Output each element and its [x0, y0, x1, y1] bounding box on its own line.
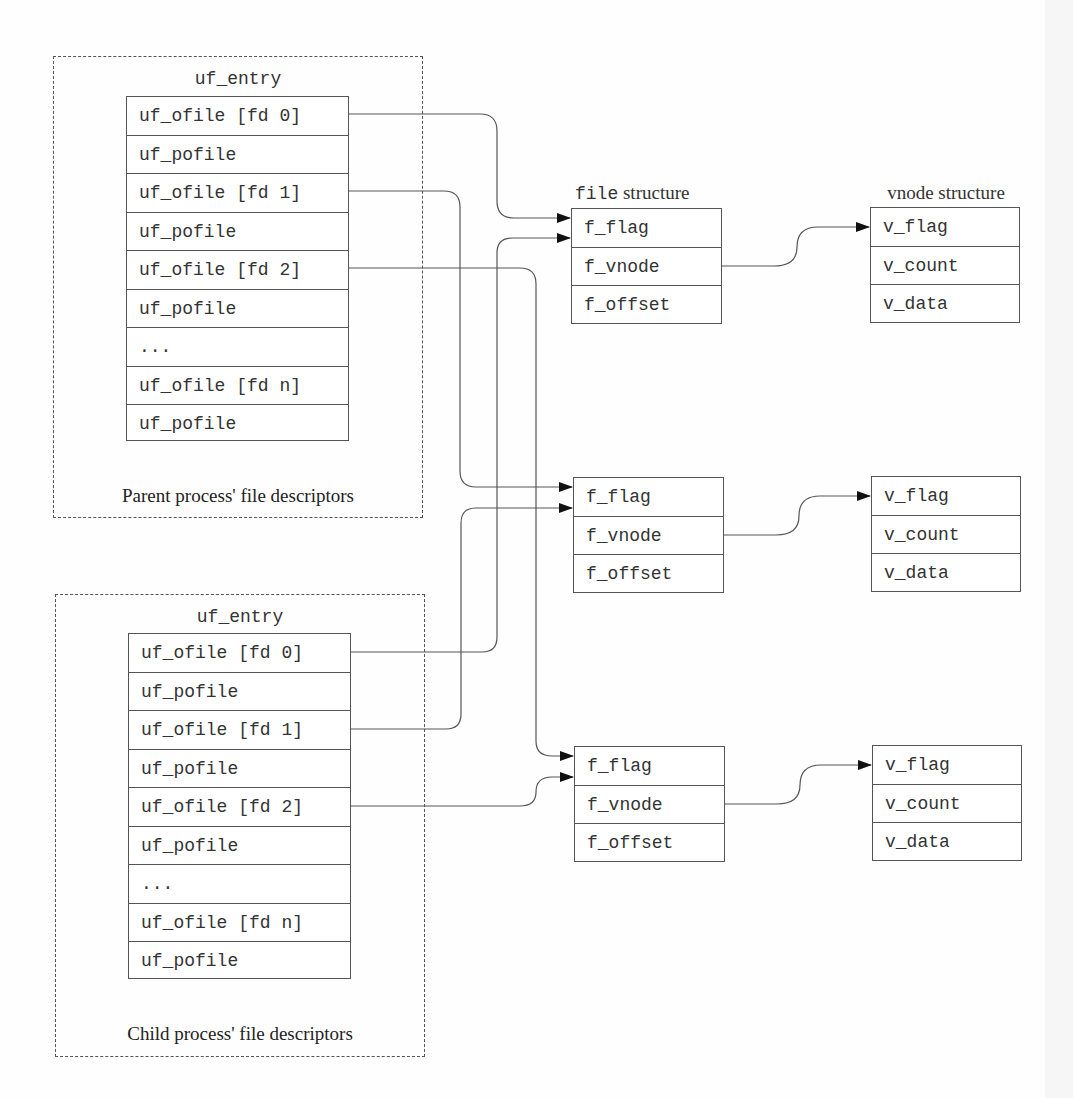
pointer-arrows	[0, 0, 1073, 1098]
arrow-vnode-2	[724, 496, 870, 535]
arrow-child-fd1	[351, 508, 572, 729]
arrow-parent-fd1	[349, 191, 572, 487]
arrow-vnode-3	[725, 765, 871, 804]
arrow-child-fd2	[351, 777, 573, 806]
arrow-vnode-1	[722, 227, 869, 266]
